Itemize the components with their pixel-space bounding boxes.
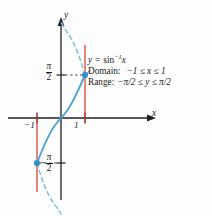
x-tick-label-one: 1 — [74, 120, 79, 130]
pi-numerator: π — [46, 62, 53, 72]
range-line: Range: −π/2 ≤ y ≤ π/2 — [88, 77, 212, 88]
range-label: Range: — [88, 77, 114, 87]
equation-function: sin — [103, 55, 114, 65]
equation-exponent: −1 — [114, 53, 122, 60]
x-tick-label-neg-one: −1 — [24, 120, 35, 130]
equation-line: y = sin−1x — [88, 55, 212, 66]
y-tick-label-pi-over-two: π 2 — [45, 62, 52, 83]
y-axis-label: y — [64, 10, 68, 20]
domain-line: Domain: −1 ≤ x ≤ 1 — [88, 66, 212, 77]
range-value: −π/2 ≤ y ≤ π/2 — [117, 77, 171, 87]
x-axis-label: x — [152, 108, 156, 118]
curve-dashed-upper — [61, 21, 86, 75]
neg-pi-over-two-sign: − — [40, 158, 45, 168]
two-denominator: 2 — [46, 164, 53, 174]
equation-argument: x — [122, 55, 126, 65]
domain-value: −1 ≤ x ≤ 1 — [126, 66, 165, 76]
domain-label: Domain: — [88, 66, 121, 76]
graph-canvas — [0, 0, 212, 216]
annotation-block: y = sin−1x Domain: −1 ≤ x ≤ 1 Range: −π/… — [88, 55, 212, 89]
two-denominator: 2 — [46, 73, 53, 83]
y-axis — [58, 17, 65, 200]
pi-numerator: π — [46, 153, 53, 163]
y-tick-label-neg-pi-over-two: − π 2 — [40, 153, 53, 174]
inverse-sine-figure: y x −1 1 π 2 − π 2 y = sin−1x Domain: −1… — [0, 0, 212, 216]
